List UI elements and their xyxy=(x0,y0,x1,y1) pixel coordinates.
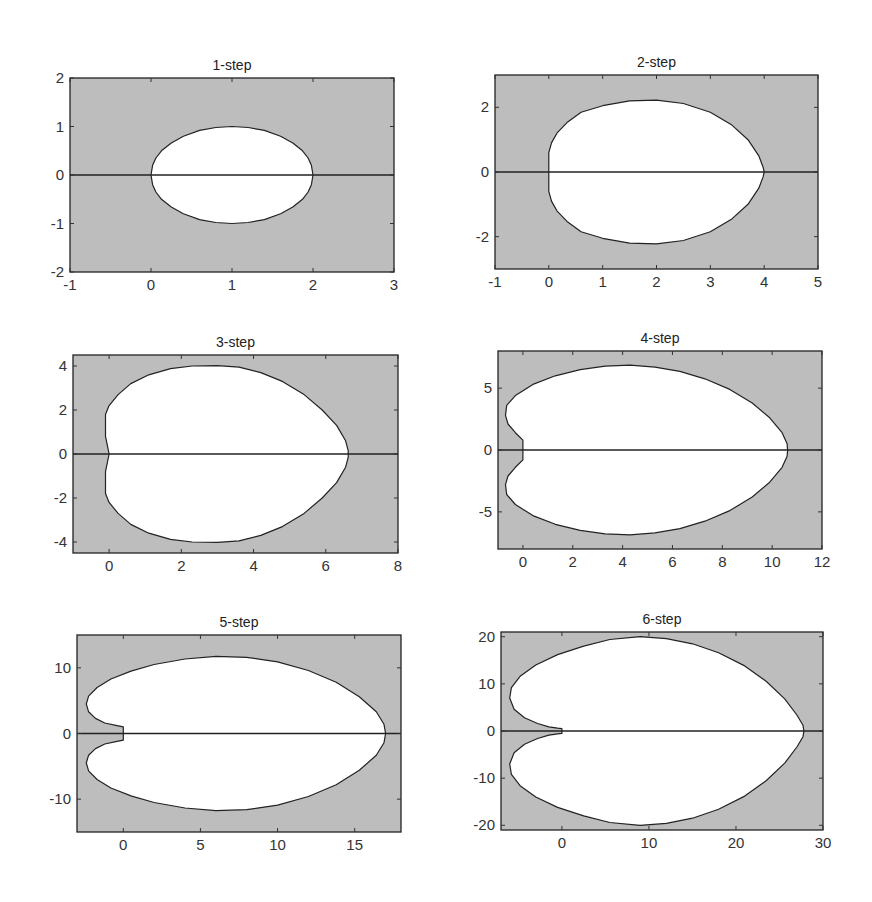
y-tick-label: 4 xyxy=(59,357,67,374)
x-tick-label: 0 xyxy=(558,834,566,851)
y-tick-label: 10 xyxy=(54,659,71,676)
x-tick-label: 10 xyxy=(641,834,658,851)
x-tick-label: -1 xyxy=(488,273,501,290)
y-tick-label: -2 xyxy=(51,263,64,280)
y-tick-label: -4 xyxy=(54,533,67,550)
x-tick-label: 4 xyxy=(249,557,257,574)
y-tick-label: 0 xyxy=(59,445,67,462)
y-tick-label: -2 xyxy=(476,228,489,245)
subplot-2-step: 2-step -1012345-202 xyxy=(476,54,823,290)
subplot-5-step: 5-step 051015-10010 xyxy=(49,614,401,853)
subplot-title: 6-step xyxy=(643,611,682,627)
x-tick-label: 0 xyxy=(545,273,553,290)
y-tick-label: 0 xyxy=(481,163,489,180)
y-tick-label: 10 xyxy=(478,675,495,692)
y-tick-label: -2 xyxy=(54,489,67,506)
y-tick-label: -5 xyxy=(479,503,492,520)
x-tick-label: 6 xyxy=(668,553,676,570)
x-tick-label: 2 xyxy=(569,553,577,570)
y-tick-label: 0 xyxy=(487,722,495,739)
x-tick-label: 20 xyxy=(728,834,745,851)
y-tick-label: -20 xyxy=(473,816,495,833)
x-tick-label: 12 xyxy=(814,553,831,570)
x-tick-label: 1 xyxy=(598,273,606,290)
subplot-6-step: 6-step 0102030-20-1001020 xyxy=(473,611,831,851)
x-tick-label: 1 xyxy=(228,276,236,293)
subplot-title: 5-step xyxy=(220,614,259,630)
y-tick-label: 2 xyxy=(56,69,64,86)
x-tick-label: 2 xyxy=(309,276,317,293)
x-tick-label: 8 xyxy=(718,553,726,570)
subplot-title: 1-step xyxy=(213,57,252,73)
y-tick-label: 2 xyxy=(59,401,67,418)
x-tick-label: 15 xyxy=(346,836,363,853)
x-tick-label: 3 xyxy=(706,273,714,290)
subplot-title: 4-step xyxy=(641,330,680,346)
x-tick-label: 5 xyxy=(196,836,204,853)
x-tick-label: 4 xyxy=(760,273,768,290)
x-tick-label: 10 xyxy=(764,553,781,570)
y-tick-label: -10 xyxy=(473,769,495,786)
subplot-title: 2-step xyxy=(637,54,676,70)
y-tick-label: 2 xyxy=(481,98,489,115)
x-tick-label: 10 xyxy=(269,836,286,853)
y-tick-label: -10 xyxy=(49,790,71,807)
x-tick-label: -1 xyxy=(63,276,76,293)
y-tick-label: 1 xyxy=(56,118,64,135)
x-tick-label: 0 xyxy=(519,553,527,570)
subplot-title: 3-step xyxy=(216,334,255,350)
x-tick-label: 6 xyxy=(322,557,330,574)
y-tick-label: 0 xyxy=(63,725,71,742)
x-tick-label: 5 xyxy=(814,273,822,290)
subplot-1-step: 1-step -10123-2-1012 xyxy=(51,57,399,293)
x-tick-label: 0 xyxy=(147,276,155,293)
x-tick-label: 8 xyxy=(394,557,402,574)
subplot-3-step: 3-step 02468-4-2024 xyxy=(54,334,403,574)
figure-canvas: 1-step -10123-2-1012 2-step -1012345-202… xyxy=(0,0,872,902)
y-tick-label: 0 xyxy=(484,441,492,458)
y-tick-label: 0 xyxy=(56,166,64,183)
y-tick-label: 5 xyxy=(484,379,492,396)
x-tick-label: 3 xyxy=(390,276,398,293)
x-tick-label: 0 xyxy=(119,836,127,853)
x-tick-label: 2 xyxy=(177,557,185,574)
y-tick-label: -1 xyxy=(51,215,64,232)
y-tick-label: 20 xyxy=(478,628,495,645)
x-tick-label: 2 xyxy=(652,273,660,290)
x-tick-label: 0 xyxy=(105,557,113,574)
subplot-4-step: 4-step 024681012-505 xyxy=(479,330,831,570)
x-tick-label: 30 xyxy=(815,834,832,851)
x-tick-label: 4 xyxy=(618,553,626,570)
